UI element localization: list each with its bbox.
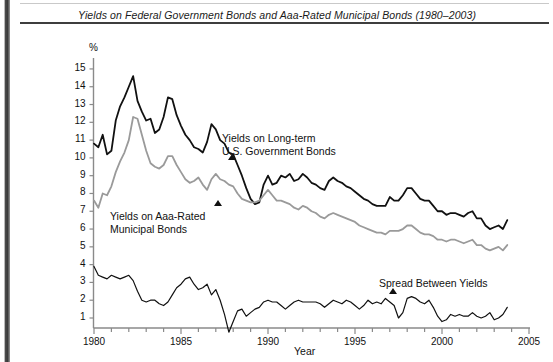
y-tick-label: 10	[68, 151, 86, 162]
y-tick-label: 4	[68, 258, 86, 269]
y-tick-label: 9	[68, 169, 86, 180]
annotation-spread-line1: Spread Between Yields	[379, 277, 488, 290]
y-tick-label: 8	[68, 186, 86, 197]
x-tick-label: 1985	[161, 336, 201, 347]
chart-plot-area	[0, 0, 553, 362]
chart-axes	[90, 58, 531, 334]
chart-series	[94, 76, 507, 332]
x-tick-label: 2000	[422, 336, 462, 347]
annotation-municipal-bonds-line1: Yields on Aaa-Rated	[110, 210, 205, 223]
y-tick-label: 12	[68, 115, 86, 126]
y-tick-label: 1	[68, 311, 86, 322]
y-tick-label: 2	[68, 293, 86, 304]
x-tick-label: 1980	[74, 336, 114, 347]
annotation-municipal-bonds-line2: Municipal Bonds	[110, 223, 205, 236]
x-tick-label: 2005	[509, 336, 549, 347]
y-tick-label: 11	[68, 133, 86, 144]
y-tick-label: 3	[68, 275, 86, 286]
annotation-leader-municipal	[214, 200, 222, 206]
y-tick-label: 6	[68, 222, 86, 233]
y-tick-label: 5	[68, 240, 86, 251]
annotation-spread: Spread Between Yields	[379, 277, 488, 290]
y-axis-unit-label: %	[89, 42, 98, 53]
y-tick-label: 15	[68, 62, 86, 73]
y-tick-label: 7	[68, 204, 86, 215]
y-tick-label: 13	[68, 98, 86, 109]
annotation-government-bonds-line2: U.S. Government Bonds	[222, 145, 336, 158]
y-tick-label: 14	[68, 80, 86, 91]
x-tick-label: 1990	[248, 336, 288, 347]
annotation-government-bonds: Yields on Long-term U.S. Government Bond…	[222, 132, 336, 157]
x-axis-title: Year	[294, 345, 315, 357]
x-tick-label: 1995	[335, 336, 375, 347]
figure-page: Yields on Federal Government Bonds and A…	[0, 0, 553, 362]
annotation-municipal-bonds: Yields on Aaa-Rated Municipal Bonds	[110, 210, 205, 235]
annotation-government-bonds-line1: Yields on Long-term	[222, 132, 336, 145]
